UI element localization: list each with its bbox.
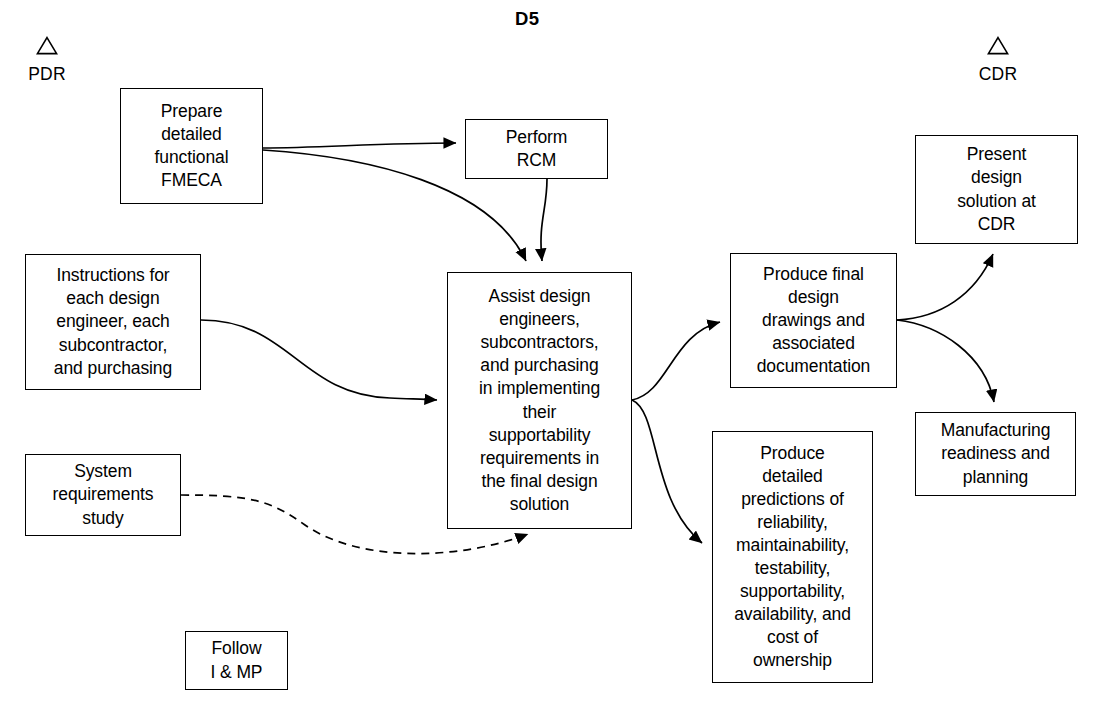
node-instructions-for-each-design-engineer[interactable]: Instructions for each design engineer, e… bbox=[25, 254, 201, 390]
node-label-manufacturing-readiness-and-planning: Manufacturing readiness and planning bbox=[941, 419, 1051, 488]
node-assist-design-engineers[interactable]: Assist design engineers, subcontractors,… bbox=[447, 272, 632, 529]
milestone-cdr: CDR bbox=[975, 36, 1021, 85]
node-follow-i-and-mp[interactable]: Follow I & MP bbox=[185, 631, 288, 690]
node-label-system-requirements-study: System requirements study bbox=[53, 460, 154, 529]
diagram-canvas: D5 PDRCDR Prepare detailed functional FM… bbox=[0, 0, 1097, 712]
node-label-produce-detailed-predictions: Produce detailed predictions of reliabil… bbox=[734, 442, 851, 673]
edge-final-design-to-manufacturing bbox=[897, 320, 994, 402]
node-perform-rcm[interactable]: Perform RCM bbox=[465, 119, 608, 179]
edge-fmeca-to-rcm bbox=[263, 143, 456, 148]
node-label-assist-design-engineers: Assist design engineers, subcontractors,… bbox=[479, 285, 600, 516]
triangle-icon bbox=[36, 36, 58, 55]
node-label-perform-rcm: Perform RCM bbox=[506, 126, 568, 172]
milestone-label-cdr: CDR bbox=[975, 64, 1021, 85]
node-manufacturing-readiness-and-planning[interactable]: Manufacturing readiness and planning bbox=[915, 412, 1076, 496]
edge-final-design-to-present-cdr bbox=[897, 254, 993, 320]
node-label-present-design-solution-at-cdr: Present design solution at CDR bbox=[957, 143, 1036, 235]
page-title: D5 bbox=[515, 8, 539, 30]
node-produce-final-design-drawings[interactable]: Produce final design drawings and associ… bbox=[730, 253, 897, 388]
node-label-instructions-for-each-design-engineer: Instructions for each design engineer, e… bbox=[54, 264, 172, 379]
node-system-requirements-study[interactable]: System requirements study bbox=[25, 454, 181, 536]
triangle-icon bbox=[987, 36, 1009, 55]
edge-instructions-to-assist bbox=[201, 320, 437, 400]
milestone-label-pdr: PDR bbox=[24, 64, 70, 85]
node-produce-detailed-predictions[interactable]: Produce detailed predictions of reliabil… bbox=[712, 431, 873, 683]
edge-assist-to-predictions bbox=[632, 400, 702, 543]
node-label-follow-i-and-mp: Follow I & MP bbox=[211, 637, 263, 683]
node-label-produce-final-design-drawings: Produce final design drawings and associ… bbox=[757, 263, 871, 378]
milestone-pdr: PDR bbox=[24, 36, 70, 85]
node-label-prepare-detailed-functional-fmeca: Prepare detailed functional FMECA bbox=[155, 100, 229, 192]
edge-rcm-to-assist bbox=[541, 179, 547, 261]
node-present-design-solution-at-cdr[interactable]: Present design solution at CDR bbox=[915, 135, 1078, 244]
node-prepare-detailed-functional-fmeca[interactable]: Prepare detailed functional FMECA bbox=[120, 88, 263, 204]
edge-assist-to-final-design bbox=[632, 322, 720, 400]
